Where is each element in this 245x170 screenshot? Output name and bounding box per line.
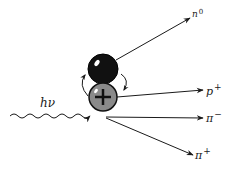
pi-minus-label-charge: − — [214, 109, 222, 119]
pi-plus-label-base: π — [195, 149, 202, 162]
neutron-sphere — [88, 54, 118, 84]
pi-minus-label: π− — [206, 113, 222, 124]
proton-label-charge: + — [214, 82, 222, 92]
pi-plus-track — [106, 118, 193, 155]
pi-plus-label-charge: + — [203, 146, 211, 156]
pi-minus-track — [106, 117, 203, 118]
photon-wave — [10, 114, 90, 118]
exchange-arrow-left — [82, 75, 88, 96]
proton-label: p+ — [206, 86, 222, 97]
proton-sphere — [89, 83, 117, 111]
neutron-track — [116, 18, 190, 60]
pi-plus-label: π+ — [195, 150, 211, 161]
proton-track — [117, 90, 203, 97]
proton-label-base: p — [206, 85, 213, 98]
neutron-label: n0 — [192, 10, 203, 19]
neutron-label-charge: 0 — [199, 8, 203, 16]
photon-label: hν — [40, 97, 55, 109]
exchange-arrow-right — [121, 74, 126, 90]
pi-minus-label-base: π — [206, 112, 213, 125]
neutron-label-base: n — [192, 9, 198, 19]
